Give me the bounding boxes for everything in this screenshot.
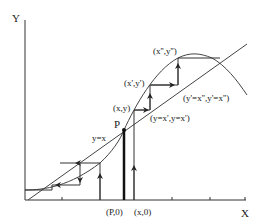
x0-label: (x,0) xyxy=(134,207,151,217)
step1-label: (y=x',y=x') xyxy=(150,113,190,123)
cobweb-diagram: Y X y=x P (P,0) (x,0) (x,y) (x',y') (x''… xyxy=(0,0,259,221)
xy-label: (x,y) xyxy=(113,103,130,113)
y-axis-label: Y xyxy=(12,12,20,24)
xy-prime-label: (x',y') xyxy=(124,78,145,88)
x-axis-label: X xyxy=(241,207,249,219)
cobweb-right xyxy=(134,58,220,200)
diagonal-label: y=x xyxy=(92,133,107,143)
map-curve xyxy=(25,54,247,190)
fixed-point-dot xyxy=(122,128,126,132)
xy-double-prime-label: (x'',y'') xyxy=(153,46,177,56)
diagonal-line xyxy=(28,44,247,200)
step2-label: (y'=x'',y'=x'') xyxy=(183,93,229,103)
fixed-point-label: P xyxy=(114,118,120,130)
p0-label: (P,0) xyxy=(106,207,123,217)
